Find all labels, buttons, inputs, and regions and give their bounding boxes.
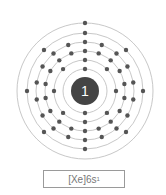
electron-dot bbox=[83, 120, 87, 124]
electron-dot bbox=[43, 96, 47, 100]
electron-dot bbox=[117, 109, 121, 113]
electron-dot bbox=[83, 138, 87, 142]
electron-dot bbox=[105, 111, 109, 115]
electron-dot bbox=[83, 129, 87, 133]
electron-dot bbox=[122, 82, 126, 86]
electron-dot bbox=[69, 126, 73, 130]
electron-dot bbox=[43, 82, 47, 86]
electron-dot bbox=[83, 111, 87, 115]
electron-dot bbox=[57, 119, 61, 123]
electron-dot bbox=[66, 43, 70, 47]
electron-dot bbox=[83, 49, 87, 53]
electron-configuration-text: [Xe]6s bbox=[68, 174, 96, 185]
electron-dot bbox=[96, 126, 100, 130]
electron-dot bbox=[100, 135, 104, 139]
electron-dot bbox=[35, 97, 39, 101]
electron-dot bbox=[83, 31, 87, 35]
electron-dot bbox=[61, 67, 65, 71]
electron-dot bbox=[125, 64, 129, 68]
bohr-model-diagram: 1 bbox=[0, 0, 166, 195]
electron-dot bbox=[42, 130, 46, 134]
nucleus-label: 1 bbox=[81, 83, 89, 99]
electron-dot bbox=[124, 130, 128, 134]
electron-dot bbox=[114, 89, 118, 93]
electron-dot bbox=[83, 147, 87, 151]
electron-dot bbox=[105, 67, 109, 71]
electron-dot bbox=[69, 51, 73, 55]
electron-dot bbox=[40, 64, 44, 68]
electron-dot bbox=[40, 113, 44, 117]
electron-dot bbox=[114, 126, 118, 130]
electron-dot bbox=[122, 96, 126, 100]
electron-dot bbox=[48, 109, 52, 113]
electron-dot bbox=[83, 21, 87, 25]
electron-dot bbox=[131, 97, 135, 101]
electron-dot bbox=[83, 67, 87, 71]
electron-dot bbox=[100, 43, 104, 47]
electron-dot bbox=[96, 51, 100, 55]
electron-dot bbox=[61, 111, 65, 115]
electron-dot bbox=[42, 48, 46, 52]
electron-dot bbox=[25, 89, 29, 93]
electron-dot bbox=[51, 51, 55, 55]
electron-dot bbox=[83, 58, 87, 62]
electron-dot bbox=[131, 80, 135, 84]
electron-dot bbox=[124, 48, 128, 52]
electron-dot bbox=[57, 58, 61, 62]
electron-dot bbox=[117, 69, 121, 73]
electron-dot bbox=[109, 119, 113, 123]
electron-dot bbox=[109, 58, 113, 62]
electron-configuration-superscript: 1 bbox=[97, 176, 100, 182]
electron-dot bbox=[141, 89, 145, 93]
electron-dot bbox=[83, 40, 87, 44]
electron-dot bbox=[51, 126, 55, 130]
electron-dot bbox=[35, 80, 39, 84]
electron-configuration-box: [Xe]6s1 bbox=[43, 170, 125, 188]
electron-dot bbox=[52, 89, 56, 93]
electron-dot bbox=[66, 135, 70, 139]
electron-dot bbox=[125, 113, 129, 117]
electron-dot bbox=[114, 51, 118, 55]
electron-dot bbox=[48, 69, 52, 73]
